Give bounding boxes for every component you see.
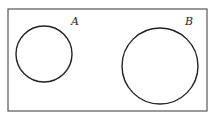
set-a-label: A [70, 15, 79, 28]
set-a-circle [16, 26, 72, 82]
set-b-circle [122, 28, 198, 104]
set-b-label: B [184, 15, 193, 28]
venn-diagram: A B [0, 0, 214, 117]
universe-rectangle [8, 9, 207, 111]
